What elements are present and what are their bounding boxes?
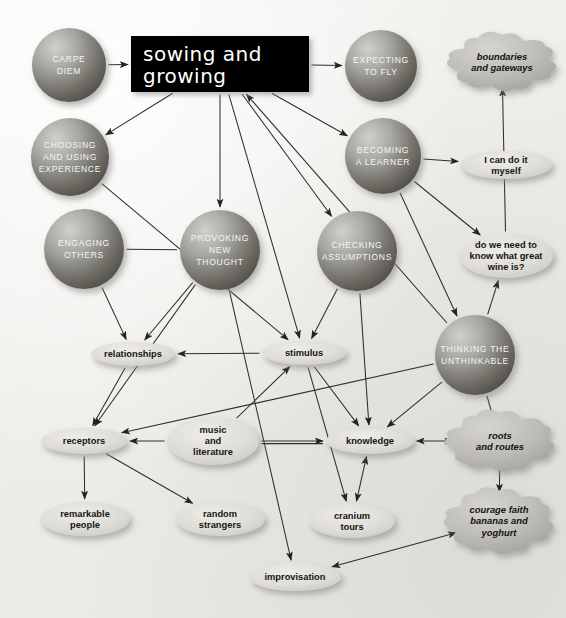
ellipse-label-line: literature [193,447,233,457]
cloud-label-line: courage faith [470,504,529,515]
title-line-1: sowing and [143,42,262,66]
ellipse-label-line: remarkable [60,509,110,519]
sphere-label-line: OTHERS [64,250,104,260]
ellipse-knowledge[interactable]: knowledge [326,428,414,454]
sphere-choosing-and-using-experience[interactable]: CHOOSINGAND USINGEXPERIENCE [31,118,109,196]
cloud-nodes: boundariesand gatewaysrootsand routescou… [444,32,556,554]
ellipse-label-line: people [70,520,100,530]
node-layer: boundariesand gatewaysrootsand routescou… [0,0,566,618]
ellipse-do-we-need-to-know[interactable]: do we need toknow what greatwine is? [459,234,553,278]
ellipse-stimulus[interactable]: stimulus [262,341,346,365]
sphere-expecting-to-fly[interactable]: EXPECTINGTO FLY [345,30,417,102]
sphere-label-line: ENGAGING [58,238,110,248]
ellipse-receptors[interactable]: receptors [41,428,127,454]
sphere-label-line: DIEM [57,66,81,76]
sphere-label-line: ASSUMPTIONS [322,252,392,262]
ellipse-label-line: random [203,509,237,519]
sphere-label-line: TO FLY [364,67,398,77]
ellipse-label-line: and [205,436,222,446]
sphere-label-line: CARPE [52,54,85,64]
ellipse-label-line: knowledge [346,436,394,446]
sphere-becoming-a-learner[interactable]: BECOMINGA LEARNER [345,118,421,194]
cloud-label-line: and routes [476,441,524,452]
ellipse-music-and-literature[interactable]: musicandliterature [167,417,259,465]
sphere-label-line: EXPERIENCE [39,164,101,174]
cloud-courage-faith-bananas[interactable]: courage faithbananas andyoghurt [444,487,553,553]
sphere-label-line: AND USING [43,152,97,162]
sphere-thinking-the-unthinkable[interactable]: THINKING THEUNTHINKABLE [435,315,515,395]
ellipse-label-line: music [200,425,227,435]
ellipse-label-line: myself [491,166,521,176]
sphere-label-line: THINKING THE [441,344,510,354]
ellipse-label-line: strangers [199,520,241,530]
cloud-label-line: yoghurt [481,527,518,538]
cloud-boundaries-and-gateways[interactable]: boundariesand gateways [447,32,556,91]
cloud-label-line: and gateways [471,62,532,73]
ellipse-label-line: know what great [470,251,543,261]
sphere-label-line: A LEARNER [356,157,411,167]
sphere-provoking-new-thought[interactable]: PROVOKINGNEWTHOUGHT [180,210,260,290]
sphere-label-line: BECOMING [357,145,409,155]
title-node[interactable]: sowing andgrowing [131,36,309,92]
ellipse-label-line: do we need to [475,240,537,250]
ellipse-remarkable-people[interactable]: remarkablepeople [40,502,130,536]
cloud-roots-and-routes[interactable]: rootsand routes [445,410,554,472]
sphere-body [32,28,106,102]
ellipse-label-line: cranium [334,511,370,521]
ellipse-label-line: receptors [63,436,105,446]
sphere-label-line: PROVOKING [191,233,249,243]
ellipse-label-line: wine is? [487,262,525,272]
sphere-label-line: NEW [209,245,231,255]
cloud-label-line: roots [488,430,511,441]
sphere-body [345,30,417,102]
sphere-engaging-others[interactable]: ENGAGINGOTHERS [44,209,124,289]
sphere-body [44,209,124,289]
ellipse-relationships[interactable]: relationships [91,342,175,366]
sphere-body [317,211,397,291]
sphere-body [345,118,421,194]
ellipse-label-line: relationships [104,349,162,359]
ellipse-label-line: improvisation [265,572,326,582]
cloud-label-line: bananas and [470,515,528,526]
mindmap-canvas: boundariesand gatewaysrootsand routescou… [0,0,566,618]
sphere-body [435,315,515,395]
sphere-label-line: THOUGHT [196,257,243,267]
sphere-carpe-diem[interactable]: CARPEDIEM [32,28,106,102]
sphere-label-line: UNTHINKABLE [441,356,509,366]
ellipse-i-can-do-it-myself[interactable]: I can do itmyself [460,151,552,179]
ellipse-improvisation[interactable]: improvisation [249,563,341,591]
sphere-label-line: CHECKING [332,240,383,250]
sphere-checking-assumptions[interactable]: CHECKINGASSUMPTIONS [317,211,397,291]
ellipse-label-line: I can do it [484,155,527,165]
ellipse-random-strangers[interactable]: randomstrangers [175,502,265,536]
ellipse-label-line: tours [340,522,363,532]
ellipse-label-line: stimulus [285,348,323,358]
ellipse-cranium-tours[interactable]: craniumtours [309,504,395,538]
sphere-label-line: CHOOSING [44,140,96,150]
sphere-label-line: EXPECTING [353,55,409,65]
title-line-2: growing [143,64,227,88]
cloud-label-line: boundaries [477,51,528,62]
